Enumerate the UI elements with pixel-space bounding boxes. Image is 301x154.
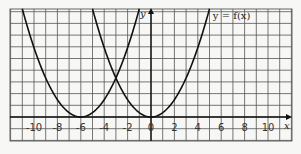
x-tick-labels: -10-8-6-4-20246810 <box>26 122 275 133</box>
x-tick-label: 0 <box>148 122 154 133</box>
x-tick-label: 4 <box>195 122 201 133</box>
curve-label: y = f(x) <box>212 10 251 21</box>
x-tick-label: -8 <box>52 122 62 133</box>
curve-f <box>151 9 210 117</box>
x-tick-label: 6 <box>218 122 224 133</box>
function-graph: -10-8-6-4-20246810 x y y = f(x) <box>0 0 301 154</box>
x-tick-label: -10 <box>26 122 42 133</box>
y-axis-label: y <box>139 8 146 19</box>
x-tick-label: 10 <box>262 122 275 133</box>
x-tick-label: -4 <box>99 122 109 133</box>
x-tick-label: 2 <box>171 122 177 133</box>
x-tick-label: 8 <box>241 122 247 133</box>
x-tick-label: -2 <box>123 122 133 133</box>
x-axis-label: x <box>284 120 290 131</box>
x-tick-label: -6 <box>76 122 86 133</box>
